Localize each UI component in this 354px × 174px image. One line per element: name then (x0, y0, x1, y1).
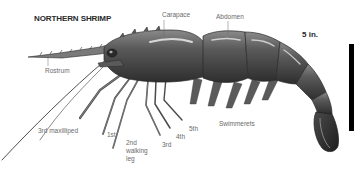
label-3rd-leg: 3rd (162, 141, 171, 149)
label-carapace: Carapace (162, 11, 190, 19)
label-5th-leg: 5th (189, 125, 198, 133)
label-swimmerets: Swimmerets (219, 120, 255, 128)
label-4th-leg: 4th (176, 133, 185, 141)
label-3rd-maxilliped: 3rd maxilliped (38, 127, 78, 135)
shrimp-illustration (0, 0, 354, 174)
label-2nd-walking-leg-line2: walking (126, 147, 148, 155)
northern-shrimp-diagram: NORTHERN SHRIMP 5 in. Carapace Abdomen R… (0, 0, 354, 174)
diagram-title: NORTHERN SHRIMP (34, 14, 111, 23)
scale-bar (349, 44, 354, 131)
swimmerets (190, 78, 278, 108)
label-1st-leg: 1st (107, 131, 116, 139)
label-rostrum: Rostrum (45, 67, 70, 75)
label-2nd-walking-leg-line1: 2nd (126, 139, 137, 147)
label-abdomen: Abdomen (216, 13, 244, 21)
scale-label: 5 in. (302, 30, 318, 39)
label-2nd-walking-leg-line3: leg (126, 155, 135, 163)
walking-legs (80, 74, 182, 148)
